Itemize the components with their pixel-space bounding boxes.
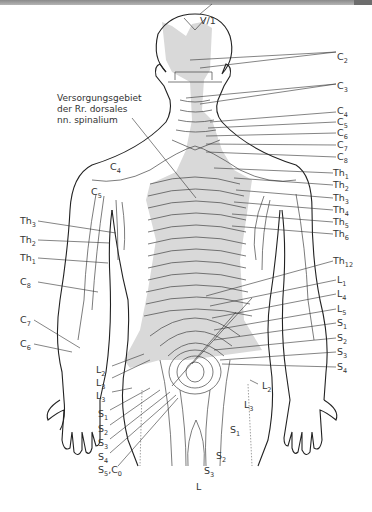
label-th2: Th2 [332,179,349,193]
label-s1: S1 [230,424,240,438]
dermatome-diagram: V/1 Versorgungsgebiet der Rr. dorsales n… [0,0,372,512]
label-v1: V/1 [200,15,216,26]
label-c4: C4 [110,161,121,175]
right-dermatome-labels: C2C3C4C5C6C7C8Th1Th2Th3Th4Th5Th6Th12L1L4… [332,51,353,375]
label-s3: S3 [98,437,108,451]
label-s2: S2 [216,450,226,464]
label-l5: L5 [337,303,346,317]
label-c8: C8 [337,151,348,165]
label-l1: L1 [337,274,346,288]
left-dermatome-labels: Th3Th2Th1C8C7C6 [19,215,36,352]
label-s4: S4 [337,361,347,375]
label-c3: C3 [337,80,348,94]
label-c6: C6 [20,338,31,352]
label-l2: L2 [262,380,271,394]
label-th12: Th12 [332,255,353,269]
label-th3: Th3 [19,215,36,229]
label-c7: C7 [20,314,31,328]
label-c2: C2 [337,51,348,65]
label-l: L [196,481,202,492]
label-th2: Th2 [19,234,36,248]
label-c5: C5 [91,186,102,200]
label-l2: L2 [96,364,105,378]
label-s4: S4 [98,451,108,465]
label-l3: L3 [96,390,105,404]
label-th1: Th1 [19,252,36,266]
left-hand [47,400,100,455]
label-l3: L3 [244,399,253,413]
label-s3: S3 [204,465,214,479]
label-s2: S2 [337,332,347,346]
label-l4: L4 [337,288,346,302]
right-hand [284,400,337,455]
label-c8: C8 [20,276,31,290]
label-s1: S1 [337,317,347,331]
caption-text: Versorgungsgebiet der Rr. dorsales nn. s… [57,93,144,125]
label-s3: S3 [337,346,347,360]
label-th6: Th6 [332,228,349,242]
